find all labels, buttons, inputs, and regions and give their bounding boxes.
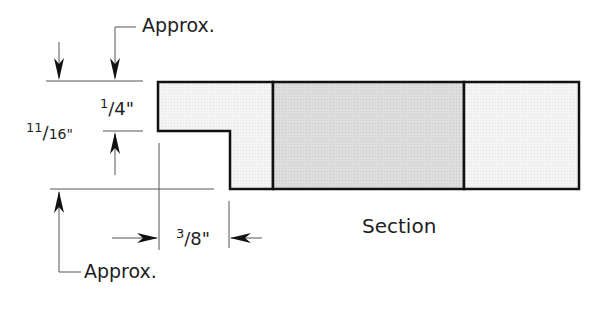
dimension-three-eighths: 3/8": [176, 226, 210, 249]
section-caption: Section: [362, 214, 436, 238]
left-section: [158, 82, 273, 189]
dimension-quarter-inch: 1/4": [100, 96, 134, 119]
right-section: [464, 82, 579, 189]
approx-label-top: Approx.: [142, 14, 215, 36]
center-section: [273, 82, 464, 189]
approx-label-bottom: Approx.: [84, 260, 157, 282]
dimension-eleven-sixteenths: 11/16": [26, 120, 73, 143]
